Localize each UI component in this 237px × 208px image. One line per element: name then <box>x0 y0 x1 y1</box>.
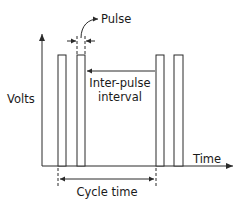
cycle-time-annotation: Cycle time <box>58 168 156 199</box>
cycle-time-label: Cycle time <box>76 185 137 199</box>
inter-pulse-label-line2: interval <box>98 90 142 104</box>
pulse-3 <box>156 55 164 166</box>
pulse-callout-curve <box>81 19 98 38</box>
pulse-width-annotation: Pulse <box>67 12 131 55</box>
inter-pulse-label-line1: Inter-pulse <box>89 76 150 90</box>
pulse-4 <box>174 55 183 166</box>
y-axis-label: Volts <box>7 92 35 106</box>
x-axis-label: Time <box>192 152 221 166</box>
inter-pulse-annotation: Inter-pulse interval <box>87 71 155 104</box>
pulse-1 <box>58 55 66 166</box>
pulse-label: Pulse <box>101 12 131 26</box>
pulse-2 <box>77 55 85 166</box>
pulse-diagram: Pulse Inter-pulse interval Cycle time Vo… <box>0 0 237 208</box>
pulse-train <box>58 55 183 166</box>
